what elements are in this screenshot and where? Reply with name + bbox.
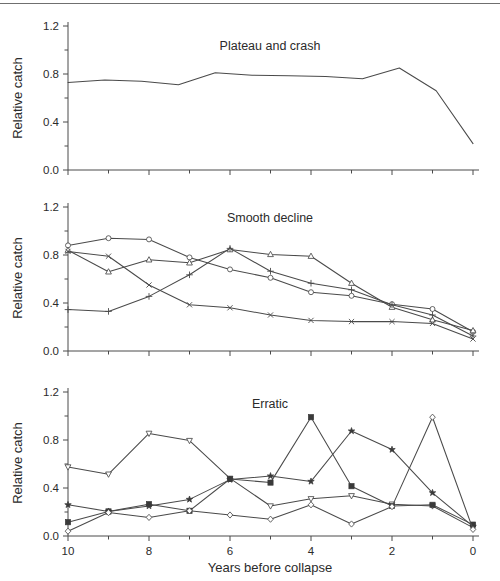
series-erratic-star <box>65 428 476 530</box>
series-plateau-and-crash <box>68 68 473 144</box>
marker-diamond <box>268 516 274 522</box>
marker-diamond <box>146 514 152 520</box>
y-tick-label: 0.4 <box>43 297 60 309</box>
series-erratic-square <box>65 415 475 528</box>
panel-2-x-tick-labels: 1086420 <box>62 545 477 557</box>
x-tick-label: 4 <box>308 545 315 557</box>
panel-1-title: Smooth decline <box>227 211 313 225</box>
y-tick-label: 0.0 <box>43 164 59 176</box>
marker-plus <box>186 272 193 279</box>
series-smooth-decline-triangle <box>65 247 476 333</box>
x-tick-label: 8 <box>146 545 152 557</box>
panel-erratic: 0.00.40.81.2 1086420 Relative catch Erra… <box>10 386 479 575</box>
three-panel-line-chart: 0.00.40.81.2 Relative catch Plateau and … <box>0 0 500 581</box>
marker-diamond <box>430 414 436 420</box>
marker-plus <box>65 306 72 313</box>
y-tick-label: 1.2 <box>43 201 59 213</box>
x-tick-label: 2 <box>389 545 395 557</box>
y-tick-label: 0.8 <box>43 249 59 261</box>
marker-circle <box>147 237 152 242</box>
panel-2-series-group <box>65 414 476 534</box>
marker-diamond <box>349 521 355 527</box>
panel-plateau-and-crash: 0.00.40.81.2 Relative catch Plateau and … <box>10 20 479 176</box>
marker-square <box>430 502 435 507</box>
panel-2-y-axis-title: Relative catch <box>10 422 25 504</box>
marker-star <box>267 473 273 479</box>
series-smooth-decline-cross <box>65 249 475 342</box>
x-tick-label: 6 <box>227 545 233 557</box>
y-tick-label: 0.0 <box>43 530 59 542</box>
y-tick-label: 0.0 <box>43 345 59 357</box>
panel-2-y-tick-labels: 0.00.40.81.2 <box>43 386 60 542</box>
marker-star <box>186 496 192 502</box>
marker-circle <box>309 290 314 295</box>
panel-1-ticks <box>63 207 473 356</box>
marker-star <box>348 428 354 434</box>
marker-triangle-up <box>349 280 355 285</box>
marker-circle <box>268 275 273 280</box>
marker-plus <box>308 280 315 287</box>
figure-root: 0.00.40.81.2 Relative catch Plateau and … <box>0 0 500 581</box>
y-tick-label: 0.4 <box>43 482 60 494</box>
series-line-smooth-decline-triangle <box>68 250 473 331</box>
marker-square <box>349 484 354 489</box>
panel-smooth-decline: 0.00.40.81.2 Relative catch Smooth decli… <box>10 201 479 357</box>
y-tick-label: 1.2 <box>43 20 59 32</box>
marker-diamond <box>65 528 71 534</box>
series-line-erratic-star <box>68 431 473 526</box>
header-rule <box>0 3 500 4</box>
marker-plus <box>267 268 274 275</box>
panel-0-series-group <box>68 68 473 144</box>
panel-0-y-tick-labels: 0.00.40.81.2 <box>43 20 60 176</box>
series-line-plateau-and-crash <box>68 68 473 144</box>
y-tick-label: 0.8 <box>43 434 59 446</box>
marker-plus <box>429 312 436 319</box>
marker-triangle-up <box>146 257 152 262</box>
panel-1-series-group <box>65 236 477 342</box>
marker-circle <box>430 307 435 312</box>
series-smooth-decline-plus <box>65 245 477 339</box>
x-axis-title: Years before collapse <box>208 560 333 575</box>
y-tick-label: 0.4 <box>43 116 60 128</box>
panel-1-y-tick-labels: 0.00.40.81.2 <box>43 201 60 357</box>
marker-circle <box>349 293 354 298</box>
panel-2-title: Erratic <box>252 397 288 411</box>
marker-diamond <box>227 512 233 518</box>
panel-0-y-axis-title: Relative catch <box>10 57 25 139</box>
panel-1-axis-lines <box>68 203 479 351</box>
panel-1-y-axis-title: Relative catch <box>10 237 25 319</box>
x-tick-label: 0 <box>470 545 476 557</box>
marker-circle <box>228 267 233 272</box>
marker-square <box>268 480 273 485</box>
x-tick-label: 10 <box>62 545 75 557</box>
marker-circle <box>106 236 111 241</box>
series-line-smooth-decline-cross <box>68 251 473 339</box>
marker-plus <box>146 293 153 300</box>
y-tick-label: 0.8 <box>43 68 59 80</box>
marker-square <box>65 520 70 525</box>
panel-0-title: Plateau and crash <box>220 39 321 53</box>
y-tick-label: 1.2 <box>43 386 59 398</box>
marker-plus <box>348 287 355 294</box>
marker-x <box>146 282 151 287</box>
marker-plus <box>105 308 112 315</box>
marker-diamond <box>308 502 314 508</box>
marker-square <box>308 415 313 420</box>
marker-triangle-down <box>106 472 112 477</box>
marker-triangle-down <box>268 504 274 509</box>
panel-2-axes: 0.00.40.81.2 1086420 <box>43 386 479 557</box>
